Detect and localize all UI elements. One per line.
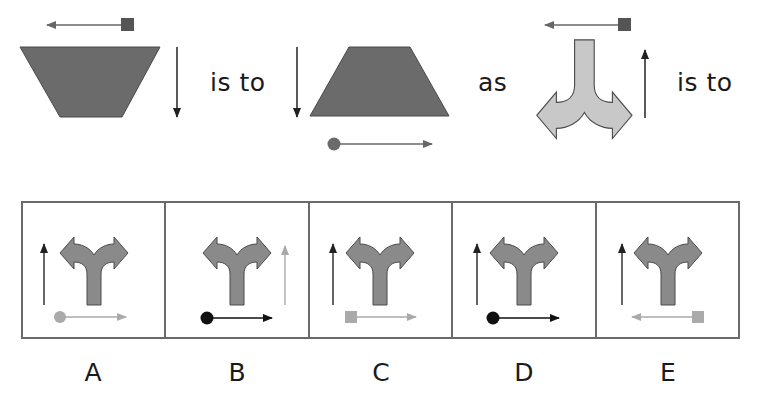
term3-fork-arrow-down — [537, 40, 632, 139]
term-3 — [537, 18, 645, 139]
option-b-cell[interactable] — [166, 203, 309, 337]
term2-upright-trapezoid — [310, 47, 449, 116]
option-label-a[interactable]: A — [73, 358, 113, 387]
term1-inverted-trapezoid — [20, 47, 160, 117]
connector-is-to-2: is to — [677, 68, 733, 97]
term2-circle-marker — [328, 138, 341, 151]
term1-square-marker — [121, 18, 134, 31]
term-2 — [297, 47, 449, 151]
term-1 — [20, 18, 177, 117]
connector-is-to-1: is to — [210, 68, 266, 97]
option-label-d[interactable]: D — [504, 358, 544, 387]
option-a-cell[interactable] — [23, 203, 166, 337]
option-d-cell[interactable] — [453, 203, 596, 337]
connector-as: as — [478, 68, 507, 97]
option-label-b[interactable]: B — [217, 358, 257, 387]
answer-options-box — [21, 201, 740, 339]
option-c-cell[interactable] — [310, 203, 453, 337]
term3-square-marker — [618, 18, 631, 31]
option-e-cell[interactable] — [597, 203, 738, 337]
option-label-c[interactable]: C — [361, 358, 401, 387]
option-label-e[interactable]: E — [648, 358, 688, 387]
